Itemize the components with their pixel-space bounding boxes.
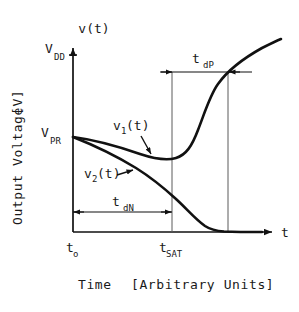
tdn-label-main: t	[112, 194, 120, 209]
vdd-label-main: V	[45, 41, 53, 56]
y-axis-unit: [V]	[10, 90, 25, 115]
v2-label-tail: (t)	[97, 166, 120, 181]
curve-label-v2: v 2 (t)	[84, 166, 133, 184]
voltage-time-plot: v(t) t V DD V PR t o t SAT t dP t dN	[0, 0, 299, 312]
vdd-label-sub: DD	[54, 52, 65, 62]
x-axis-title: Time	[78, 277, 112, 292]
dimension-tdn: t dN	[73, 194, 172, 213]
v1-label-main: v	[113, 118, 121, 133]
x-axis-title-group: Time [Arbitrary Units]	[78, 277, 274, 292]
curve-v1	[73, 39, 281, 159]
vpr-label-sub: PR	[50, 136, 61, 146]
v1-leader-arrow	[141, 136, 151, 154]
y-axis-variable-label: v(t)	[78, 21, 109, 36]
y-axis-title: Output Voltage	[10, 107, 25, 225]
y-axis-title-group: Output Voltage [V]	[10, 90, 25, 225]
x-tick-t0: t o	[66, 240, 78, 259]
x-axis-variable-label: t	[281, 225, 289, 240]
vpr-label-main: V	[41, 125, 49, 140]
x-axis-unit: [Arbitrary Units]	[131, 277, 274, 292]
v2-label-main: v	[84, 166, 92, 181]
v1-label-tail: (t)	[126, 118, 149, 133]
tdp-label-sub: dP	[203, 60, 214, 70]
curve-label-v1: v 1 (t)	[113, 118, 151, 154]
t0-label-sub: o	[73, 249, 78, 259]
y-tick-vpr: V PR	[41, 125, 61, 146]
x-tick-tsat: t SAT	[159, 240, 183, 259]
tdp-label-main: t	[192, 51, 200, 66]
tsat-label-sub: SAT	[166, 249, 183, 259]
dimension-tdp: t dP	[160, 51, 252, 72]
tdn-label-sub: dN	[123, 203, 134, 213]
curve-v2	[73, 137, 262, 232]
figure-container: v(t) t V DD V PR t o t SAT t dP t dN	[0, 0, 299, 312]
